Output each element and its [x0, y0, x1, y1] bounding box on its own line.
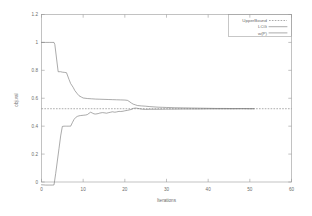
x-tick-label: 10: [81, 187, 87, 192]
y-tick-label: 0.2: [32, 152, 39, 157]
legend-label-lcg: LCG: [258, 24, 268, 29]
y-tick-label: 1.2: [32, 12, 39, 17]
x-axis-title: Iterations: [157, 198, 177, 203]
chart-screenshot: 0102030405060 00.20.40.60.811.2 Iteratio…: [0, 0, 312, 216]
y-tick-label: 0.4: [32, 124, 39, 129]
legend-label-upperbound: UpperBound: [242, 18, 267, 23]
x-tick-label: 50: [247, 187, 253, 192]
convergence-line-chart: 0102030405060 00.20.40.60.811.2 Iteratio…: [0, 0, 312, 216]
x-tick-label: 20: [122, 187, 128, 192]
x-tick-label: 60: [289, 187, 295, 192]
legend-label-w-p: w(P): [258, 31, 268, 36]
y-axis-title: obj.val: [14, 93, 19, 106]
y-tick-label: 0.8: [32, 68, 39, 73]
x-tick-label: 0: [40, 187, 43, 192]
y-tick-label: 0.6: [32, 96, 39, 101]
x-tick-label: 40: [206, 187, 212, 192]
y-tick-label: 1: [35, 40, 38, 45]
y-tick-label: 0: [35, 180, 38, 185]
x-tick-label: 30: [164, 187, 170, 192]
